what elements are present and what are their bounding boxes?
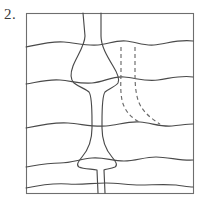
figure-root: 2. (0, 0, 210, 205)
outer-box-frame (27, 14, 194, 194)
cross-section-diagram (0, 0, 210, 205)
